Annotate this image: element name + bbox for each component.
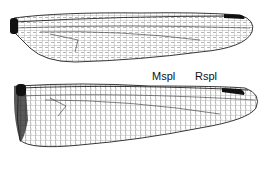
hindwing <box>14 84 258 147</box>
forewing <box>10 13 253 62</box>
label-mspl: Mspl <box>152 70 175 82</box>
forewing-base <box>10 18 18 34</box>
label-rspl: Rspl <box>195 70 217 82</box>
wing-diagram <box>0 0 261 178</box>
